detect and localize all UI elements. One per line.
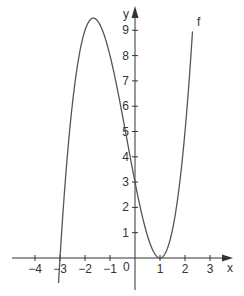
x-tick-label: 3 xyxy=(207,262,214,276)
y-tick-label: 2 xyxy=(122,200,129,214)
x-tick-label: −1 xyxy=(103,262,117,276)
y-axis-arrow-icon xyxy=(132,6,139,18)
x-tick-label: −4 xyxy=(28,262,42,276)
y-tick-label: 9 xyxy=(122,23,129,37)
x-tick-label: 1 xyxy=(157,262,164,276)
function-label: f xyxy=(197,15,201,29)
y-tick-label: 4 xyxy=(122,150,129,164)
x-tick-label: 2 xyxy=(182,262,189,276)
y-tick-label: 1 xyxy=(122,226,129,240)
x-axis-label: x xyxy=(227,261,233,275)
origin-label: 0 xyxy=(123,260,130,274)
y-axis-label: y xyxy=(123,7,129,21)
y-tick-label: 6 xyxy=(122,99,129,113)
y-tick-label: 3 xyxy=(122,175,129,189)
y-tick-label: 7 xyxy=(122,74,129,88)
x-tick-label: −2 xyxy=(78,262,92,276)
function-plot: −4−3−2−1123123456789 x y f 0 xyxy=(0,0,244,296)
y-tick-label: 8 xyxy=(122,49,129,63)
ticks: −4−3−2−1123123456789 xyxy=(28,23,214,276)
